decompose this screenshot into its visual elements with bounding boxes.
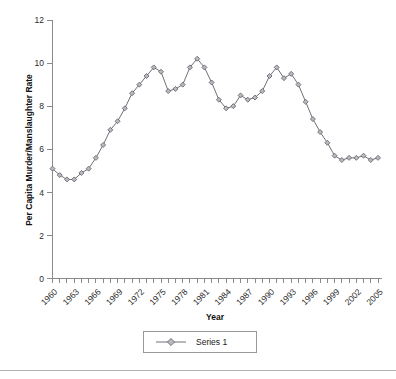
line-chart-canvas: 024681012 196019631966196919721975197819…: [0, 0, 396, 379]
y-axis-title: Per Capita Murder/Manslaughter Rate: [24, 74, 34, 226]
y-tick-label: 0: [39, 274, 44, 284]
y-tick-label: 4: [39, 188, 44, 198]
chart-legend[interactable]: Series 1: [144, 332, 257, 353]
y-tick-label: 12: [35, 15, 45, 25]
y-tick-label: 8: [39, 101, 44, 111]
legend-label-series-1: Series 1: [196, 337, 227, 347]
chart-figure: 024681012 196019631966196919721975197819…: [0, 0, 396, 379]
y-tick-label: 6: [39, 144, 44, 154]
y-tick-label: 10: [35, 58, 45, 68]
x-axis-title: Year: [206, 312, 225, 322]
y-tick-label: 2: [39, 231, 44, 241]
